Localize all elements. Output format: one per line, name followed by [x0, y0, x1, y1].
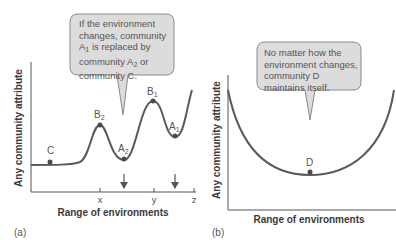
y-axis-title-a: Any community attribute [13, 69, 24, 187]
label-b1: B1 [147, 86, 158, 98]
label-a2: A2 [118, 143, 129, 155]
callout-a-line: A1 is replaced by [79, 41, 175, 56]
callout-a-line: community C. [79, 70, 175, 82]
point-a2 [122, 157, 127, 162]
arrow-down-icon [120, 174, 128, 189]
y-axis-title-b: Any community attribute [211, 81, 222, 199]
callout-b-line: No matter how the [264, 47, 364, 59]
panel-label-b: (b) [212, 227, 224, 238]
point-b2 [98, 123, 103, 128]
callout-b-line: environment changes, [264, 59, 364, 71]
callout-a-line: community A2 or [79, 56, 175, 71]
arrow-down-icon [171, 174, 179, 189]
callout-text-a: If the environment changes, community A1… [79, 18, 175, 82]
label-c: C [47, 145, 54, 156]
point-b1 [151, 99, 156, 104]
label-d: D [306, 157, 313, 168]
callout-b-line: maintains itself. [264, 82, 364, 94]
x-axis-title-a: Range of environments [57, 207, 169, 218]
point-a1 [173, 134, 178, 139]
tick-label-x: x [98, 194, 103, 205]
callout-text-b: No matter how the environment changes, c… [264, 47, 364, 93]
label-a1: A1 [169, 121, 180, 133]
stability-curve-a [31, 90, 192, 165]
figure-canvas: C B2 A2 B1 A1 x y z Range of environment… [0, 0, 396, 240]
point-d [308, 170, 313, 175]
callout-b-line: community D [264, 70, 364, 82]
tick-label-z: z [192, 194, 197, 205]
tick-label-y: y [152, 194, 157, 205]
point-c [48, 160, 53, 165]
callout-a-line: If the environment [79, 18, 175, 30]
callout-a-line: changes, community [79, 30, 175, 42]
panel-label-a: (a) [14, 227, 26, 238]
x-axis-title-b: Range of environments [253, 214, 365, 225]
label-b2: B2 [94, 109, 105, 121]
